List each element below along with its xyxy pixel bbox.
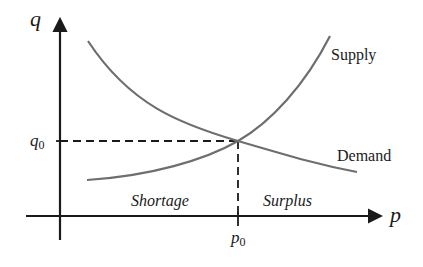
q0-label: q0 — [30, 131, 45, 152]
supply-demand-diagram: q p q0 p0 Supply Demand Shortage Surplus — [0, 0, 423, 267]
p0-label-sub: 0 — [240, 235, 246, 249]
surplus-label: Surplus — [263, 192, 312, 210]
supply-label: Supply — [331, 46, 376, 64]
q0-label-sub: 0 — [39, 138, 45, 152]
p0-label: p0 — [230, 228, 246, 249]
p0-label-main: p — [230, 228, 240, 247]
shortage-label: Shortage — [131, 192, 189, 210]
x-axis-label: p — [388, 202, 401, 227]
supply-curve — [87, 36, 330, 180]
demand-label: Demand — [337, 147, 391, 164]
y-axis-label: q — [30, 6, 41, 31]
